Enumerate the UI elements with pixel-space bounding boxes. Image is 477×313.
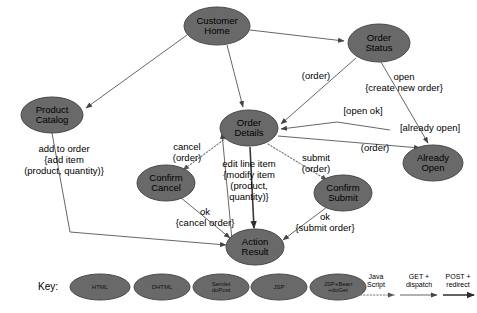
node-label-confirm-cancel: ConfirmCancel bbox=[149, 172, 182, 193]
legend: Key: HTMLDHTMLServletdoPostJSPJSP+Bean+d… bbox=[38, 273, 474, 300]
node-confirm-submit[interactable]: ConfirmSubmit bbox=[314, 175, 372, 211]
edge-home-to-order-status bbox=[250, 30, 344, 41]
legend-get: GET +dispatch bbox=[400, 273, 437, 295]
node-order-status[interactable]: OrderStatus bbox=[348, 24, 410, 62]
legend-post-label: POST +redirect bbox=[446, 273, 471, 288]
navigation-diagram: CustomerHomeOrderStatusProductCatalogOrd… bbox=[0, 0, 477, 313]
node-label-already-open: AlreadyOpen bbox=[417, 152, 449, 173]
edge-label-add-to-order: add to order{add item(product, quantity)… bbox=[24, 143, 104, 176]
legend-jspbean: JSP+Bean+doGet bbox=[310, 274, 366, 300]
legend-dhtml: DHTML bbox=[134, 274, 190, 300]
edge-home-to-order-details bbox=[227, 45, 243, 107]
node-product-catalog[interactable]: ProductCatalog bbox=[21, 97, 83, 133]
edge-label-submit-order: submit(order) bbox=[302, 151, 331, 173]
legend-dhtml-label: DHTML bbox=[152, 284, 173, 290]
node-label-product-catalog: ProductCatalog bbox=[36, 104, 69, 125]
node-order-details[interactable]: OrderDetails bbox=[220, 110, 278, 146]
legend-key-label: Key: bbox=[38, 281, 58, 292]
legend-jsp: JSP bbox=[251, 274, 307, 300]
legend-servlet: ServletdoPost bbox=[193, 274, 249, 300]
edge-label-open-ok: [open ok] bbox=[343, 105, 382, 116]
legend-html: HTML bbox=[70, 274, 130, 300]
edge-label-ok-submit: ok{submit order} bbox=[295, 210, 354, 232]
edge-open-ok-to-order-details bbox=[281, 122, 390, 130]
legend-jsp-label: JSP bbox=[273, 284, 284, 290]
legend-arrows: JavaScriptGET +dispatchPOST +redirect bbox=[357, 273, 474, 295]
edge-home-to-catalog bbox=[86, 35, 187, 108]
node-label-order-status: OrderStatus bbox=[366, 32, 393, 53]
edge-label-order-2: (order) bbox=[361, 142, 390, 153]
edge-label-already-open: [already open] bbox=[400, 122, 460, 133]
edge-labels-layer: (order)open{create new order}[open ok][a… bbox=[24, 70, 460, 233]
edge-label-ok-cancel: ok{cancel order} bbox=[176, 205, 235, 227]
node-customer-home[interactable]: CustomerHome bbox=[184, 7, 250, 45]
node-label-confirm-submit: ConfirmSubmit bbox=[326, 182, 359, 203]
node-already-open[interactable]: AlreadyOpen bbox=[403, 145, 463, 181]
legend-javascript-label: JavaScript bbox=[367, 273, 385, 289]
nodes-layer: CustomerHomeOrderStatusProductCatalogOrd… bbox=[21, 7, 463, 265]
edge-label-order-1: (order) bbox=[302, 70, 331, 81]
node-action-result[interactable]: ActionResult bbox=[226, 229, 284, 265]
legend-html-label: HTML bbox=[92, 284, 109, 290]
node-label-order-details: OrderDetails bbox=[234, 117, 263, 138]
edge-order-details-to-already-open bbox=[278, 136, 420, 148]
node-confirm-cancel[interactable]: ConfirmCancel bbox=[137, 165, 195, 201]
legend-servlet-label: ServletdoPost bbox=[212, 280, 231, 293]
legend-get-label: GET +dispatch bbox=[406, 273, 432, 289]
edge-label-cancel-order: cancel(order) bbox=[173, 140, 202, 162]
legend-nodes: HTMLDHTMLServletdoPostJSPJSP+Bean+doGet bbox=[70, 274, 366, 300]
edge-label-edit-line-item: edit line item{modify item(product,quant… bbox=[222, 157, 275, 201]
diagram-canvas: CustomerHomeOrderStatusProductCatalogOrd… bbox=[0, 0, 477, 313]
node-label-action-result: ActionResult bbox=[242, 236, 269, 257]
edge-label-open-create: open{create new order} bbox=[365, 70, 443, 92]
legend-post: POST +redirect bbox=[443, 273, 474, 295]
